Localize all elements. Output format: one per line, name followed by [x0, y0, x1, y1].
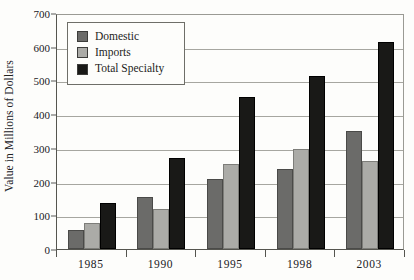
legend-label: Imports: [95, 46, 131, 59]
bar: [169, 158, 185, 249]
y-axis-title-text: Value in Millions of Dollars: [3, 60, 15, 192]
category-label: 2003: [356, 258, 381, 270]
bar: [207, 179, 223, 249]
y-tick-label: 600: [34, 42, 51, 54]
legend-swatch: [77, 47, 88, 58]
bar: [153, 209, 169, 249]
legend-swatch: [77, 64, 88, 75]
category-tick: [404, 250, 405, 257]
category-tick: [265, 250, 266, 257]
bar: [84, 223, 100, 249]
bar: [223, 164, 239, 249]
y-axis-tick-labels: 0100200300400500600700: [18, 0, 54, 280]
bar: [362, 161, 378, 249]
bar: [277, 169, 293, 249]
bar: [239, 97, 255, 249]
y-tick-label: 0: [45, 244, 51, 256]
bar: [137, 197, 153, 249]
legend-label: Total Specialty: [95, 62, 164, 75]
y-tick-label: 400: [34, 109, 51, 121]
bar-group: [335, 15, 405, 249]
y-tick-label: 500: [34, 75, 51, 87]
category-tick: [56, 250, 57, 257]
category-tick: [195, 250, 196, 257]
y-tick-label: 200: [34, 177, 51, 189]
y-tick-label: 700: [34, 8, 51, 20]
bar: [346, 131, 362, 249]
legend-item: Domestic: [77, 30, 175, 43]
bar: [309, 76, 325, 249]
bar: [378, 42, 394, 249]
y-tick-label: 300: [34, 143, 51, 155]
bar: [293, 149, 309, 249]
y-tick-label: 100: [34, 210, 51, 222]
legend-label: Domestic: [95, 30, 139, 43]
bar-group: [196, 15, 266, 249]
bar: [68, 230, 84, 249]
bar-chart-figure: Value in Millions of Dollars 01002003004…: [0, 0, 414, 280]
bar: [100, 203, 116, 249]
legend-item: Imports: [77, 46, 175, 59]
chart-legend: DomesticImportsTotal Specialty: [67, 22, 185, 85]
legend-swatch: [77, 31, 88, 42]
category-label: 1995: [217, 258, 242, 270]
category-tick: [126, 250, 127, 257]
category-label: 1985: [78, 258, 103, 270]
y-axis-title: Value in Millions of Dollars: [0, 0, 18, 252]
category-tick: [334, 250, 335, 257]
category-label: 1998: [287, 258, 312, 270]
category-label: 1990: [148, 258, 173, 270]
legend-item: Total Specialty: [77, 62, 175, 75]
bar-group: [266, 15, 336, 249]
